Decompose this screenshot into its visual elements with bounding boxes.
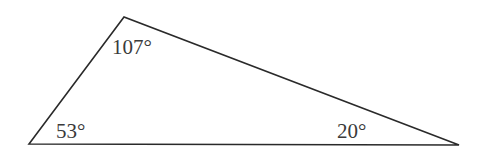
triangle-svg: 107° 53° 20°	[0, 0, 480, 163]
triangle-diagram: 107° 53° 20°	[0, 0, 480, 163]
angle-label-top: 107°	[112, 35, 152, 59]
angle-label-bottom-left: 53°	[56, 119, 85, 143]
angle-label-bottom-right: 20°	[337, 119, 366, 143]
triangle-shape	[29, 17, 459, 145]
